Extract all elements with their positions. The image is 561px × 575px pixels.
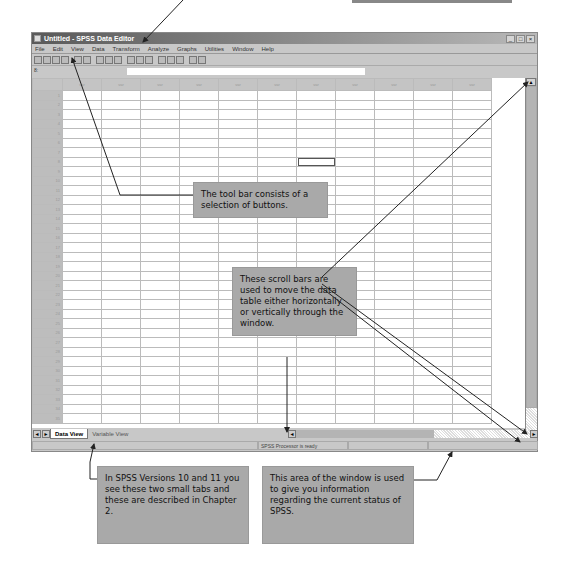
data-cell[interactable] bbox=[375, 186, 414, 196]
data-cell[interactable] bbox=[258, 338, 297, 348]
data-cell[interactable] bbox=[63, 157, 102, 167]
dialog-recall-icon[interactable] bbox=[61, 56, 69, 64]
menu-help[interactable]: Help bbox=[261, 46, 273, 52]
data-cell[interactable] bbox=[180, 233, 219, 243]
data-cell[interactable] bbox=[102, 148, 141, 158]
menu-transform[interactable]: Transform bbox=[113, 46, 140, 52]
data-cell[interactable] bbox=[141, 385, 180, 395]
select-cases-icon[interactable] bbox=[176, 56, 184, 64]
data-cell[interactable] bbox=[453, 338, 492, 348]
data-cell[interactable] bbox=[414, 138, 453, 148]
column-header[interactable]: var bbox=[453, 79, 492, 91]
data-cell[interactable] bbox=[414, 119, 453, 129]
data-cell[interactable] bbox=[297, 366, 336, 376]
data-cell[interactable] bbox=[63, 347, 102, 357]
row-header[interactable]: 9 bbox=[33, 167, 63, 177]
data-cell[interactable] bbox=[453, 395, 492, 405]
row-header[interactable]: 11 bbox=[33, 186, 63, 196]
row-header[interactable]: 13 bbox=[33, 205, 63, 215]
data-cell[interactable] bbox=[102, 338, 141, 348]
data-cell[interactable] bbox=[102, 404, 141, 414]
data-cell[interactable] bbox=[180, 366, 219, 376]
data-cell[interactable] bbox=[219, 338, 258, 348]
data-cell[interactable] bbox=[219, 414, 258, 424]
data-cell[interactable] bbox=[63, 129, 102, 139]
data-cell[interactable] bbox=[141, 167, 180, 177]
data-cell[interactable] bbox=[414, 252, 453, 262]
row-header[interactable]: 31 bbox=[33, 376, 63, 386]
close-button[interactable]: × bbox=[526, 35, 535, 43]
data-cell[interactable] bbox=[102, 110, 141, 120]
data-cell[interactable] bbox=[219, 119, 258, 129]
data-cell[interactable] bbox=[336, 414, 375, 424]
data-cell[interactable] bbox=[297, 395, 336, 405]
data-cell[interactable] bbox=[336, 252, 375, 262]
horizontal-scrollbar[interactable]: ◄ ► bbox=[288, 429, 538, 439]
data-cell[interactable] bbox=[414, 385, 453, 395]
data-table[interactable]: varvarvarvarvarvarvarvarvarvarvar1234567… bbox=[32, 78, 492, 424]
data-cell[interactable] bbox=[63, 119, 102, 129]
data-cell[interactable] bbox=[180, 414, 219, 424]
data-cell[interactable] bbox=[258, 224, 297, 234]
minimize-button[interactable]: _ bbox=[506, 35, 515, 43]
data-cell[interactable] bbox=[63, 186, 102, 196]
data-cell[interactable] bbox=[453, 148, 492, 158]
data-cell[interactable] bbox=[219, 148, 258, 158]
data-cell[interactable] bbox=[63, 138, 102, 148]
menu-data[interactable]: Data bbox=[92, 46, 105, 52]
data-cell[interactable] bbox=[63, 148, 102, 158]
row-header[interactable]: 27 bbox=[33, 338, 63, 348]
data-cell[interactable] bbox=[453, 404, 492, 414]
data-cell[interactable] bbox=[63, 252, 102, 262]
data-cell[interactable] bbox=[297, 338, 336, 348]
data-cell[interactable] bbox=[414, 157, 453, 167]
redo-icon[interactable] bbox=[83, 56, 91, 64]
column-header[interactable]: var bbox=[336, 79, 375, 91]
data-cell[interactable] bbox=[297, 347, 336, 357]
data-cell[interactable] bbox=[453, 205, 492, 215]
data-cell[interactable] bbox=[375, 233, 414, 243]
data-cell[interactable] bbox=[297, 91, 336, 101]
data-cell[interactable] bbox=[219, 347, 258, 357]
data-cell[interactable] bbox=[336, 148, 375, 158]
row-header[interactable]: 19 bbox=[33, 262, 63, 272]
data-cell[interactable] bbox=[453, 176, 492, 186]
data-cell[interactable] bbox=[102, 376, 141, 386]
menu-view[interactable]: View bbox=[71, 46, 84, 52]
row-header[interactable]: 12 bbox=[33, 195, 63, 205]
data-cell[interactable] bbox=[102, 214, 141, 224]
vertical-scroll-thumb[interactable] bbox=[527, 87, 536, 407]
data-cell[interactable] bbox=[141, 366, 180, 376]
value-labels-icon[interactable] bbox=[189, 56, 197, 64]
variables-icon[interactable] bbox=[114, 56, 122, 64]
data-cell[interactable] bbox=[102, 385, 141, 395]
data-cell[interactable] bbox=[219, 243, 258, 253]
data-cell[interactable] bbox=[258, 252, 297, 262]
data-cell[interactable] bbox=[258, 119, 297, 129]
data-cell[interactable] bbox=[258, 347, 297, 357]
data-cell[interactable] bbox=[102, 91, 141, 101]
data-cell[interactable] bbox=[219, 252, 258, 262]
data-cell[interactable] bbox=[180, 347, 219, 357]
data-cell[interactable] bbox=[180, 138, 219, 148]
data-cell[interactable] bbox=[375, 167, 414, 177]
data-cell[interactable] bbox=[180, 395, 219, 405]
data-cell[interactable] bbox=[63, 205, 102, 215]
data-cell[interactable] bbox=[102, 129, 141, 139]
data-cell[interactable] bbox=[102, 300, 141, 310]
data-cell[interactable] bbox=[375, 414, 414, 424]
data-cell[interactable] bbox=[336, 100, 375, 110]
data-cell[interactable] bbox=[141, 281, 180, 291]
data-cell[interactable] bbox=[297, 404, 336, 414]
data-cell[interactable] bbox=[102, 271, 141, 281]
data-cell[interactable] bbox=[180, 119, 219, 129]
data-cell[interactable] bbox=[141, 110, 180, 120]
data-cell[interactable] bbox=[258, 110, 297, 120]
row-header[interactable]: 3 bbox=[33, 110, 63, 120]
horizontal-scroll-track[interactable] bbox=[434, 430, 530, 438]
data-cell[interactable] bbox=[63, 290, 102, 300]
data-cell[interactable] bbox=[63, 91, 102, 101]
data-cell[interactable] bbox=[414, 347, 453, 357]
data-cell[interactable] bbox=[180, 328, 219, 338]
data-cell[interactable] bbox=[336, 176, 375, 186]
